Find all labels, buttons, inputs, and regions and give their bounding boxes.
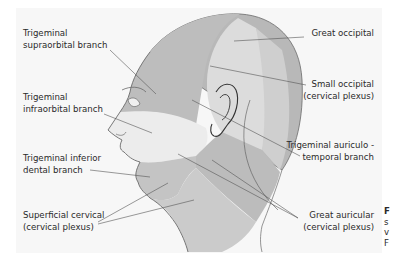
label-supraorbital-line1: Trigeminal bbox=[23, 28, 107, 40]
label-auriculotemporal-line2: temporal branch bbox=[286, 152, 374, 164]
label-great-auricular-line2: (cervical plexus) bbox=[303, 222, 374, 234]
label-inferior-dental-line1: Trigeminal inferior bbox=[23, 153, 101, 165]
caption-line3: v bbox=[384, 227, 390, 238]
caption-line1: F bbox=[384, 206, 390, 217]
label-infraorbital-line1: Trigeminal bbox=[23, 92, 103, 104]
caption-line4: F bbox=[384, 238, 390, 249]
label-infraorbital-line2: infraorbital branch bbox=[23, 104, 103, 116]
label-inferior-dental: Trigeminal inferior dental branch bbox=[23, 153, 101, 176]
label-auriculotemporal: Trigeminal auriculo - temporal branch bbox=[286, 140, 374, 163]
label-small-occipital-line1: Small occipital bbox=[303, 79, 374, 91]
label-auriculotemporal-line1: Trigeminal auriculo - bbox=[286, 140, 374, 152]
label-infraorbital: Trigeminal infraorbital branch bbox=[23, 92, 103, 115]
label-great-auricular: Great auricular (cervical plexus) bbox=[303, 210, 374, 233]
label-supraorbital-line2: supraorbital branch bbox=[23, 40, 107, 52]
figure-caption-clipped: F s v F bbox=[384, 206, 390, 248]
caption-line2: s bbox=[384, 217, 390, 228]
label-great-auricular-line1: Great auricular bbox=[303, 210, 374, 222]
label-great-occipital: Great occipital bbox=[311, 28, 374, 40]
label-small-occipital: Small occipital (cervical plexus) bbox=[303, 79, 374, 102]
label-great-occipital-line1: Great occipital bbox=[311, 28, 374, 40]
label-superficial-cervical-line2: (cervical plexus) bbox=[23, 222, 105, 234]
label-superficial-cervical-line1: Superficial cervical bbox=[23, 210, 105, 222]
label-superficial-cervical: Superficial cervical (cervical plexus) bbox=[23, 210, 105, 233]
label-small-occipital-line2: (cervical plexus) bbox=[303, 91, 374, 103]
label-inferior-dental-line2: dental branch bbox=[23, 165, 101, 177]
label-supraorbital: Trigeminal supraorbital branch bbox=[23, 28, 107, 51]
